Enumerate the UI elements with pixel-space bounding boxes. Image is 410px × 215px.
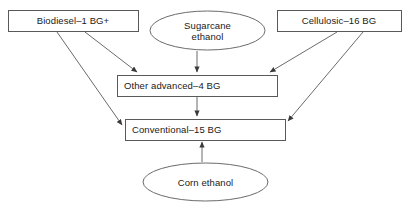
node-shape-conventional	[126, 120, 286, 141]
node-shape-corn-ethanol	[143, 163, 268, 201]
edge-cellulosic-to-other-advanced	[270, 32, 337, 72]
edge-biodiesel-to-conventional	[57, 32, 122, 125]
diagram-svg	[0, 0, 410, 215]
node-shape-sugarcane-ethanol	[150, 11, 265, 50]
node-shape-cellulosic	[278, 11, 402, 32]
edge-biodiesel-to-other-advanced	[85, 32, 137, 72]
diagram-canvas: Biodiesel–1 BG+Sugarcane ethanolCellulos…	[0, 0, 410, 215]
node-shape-biodiesel	[9, 11, 139, 32]
shapes-layer	[9, 11, 402, 202]
node-shape-other-advanced	[118, 76, 278, 97]
edge-cellulosic-to-conventional	[288, 32, 363, 121]
